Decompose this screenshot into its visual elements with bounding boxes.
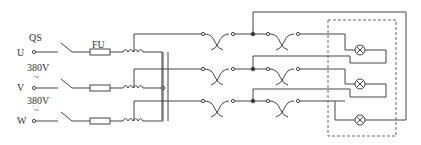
- coil-u-icon: [123, 50, 143, 53]
- circuit-svg: QS FU U 380V ~ V 380V ~ W: [0, 0, 421, 145]
- coil-v-icon: [123, 86, 143, 89]
- phase-v-line: [32, 69, 201, 91]
- switch-label: QS: [29, 32, 42, 43]
- coupler-1b-icon: [270, 34, 288, 50]
- fuse-label: FU: [92, 39, 106, 50]
- ac-symbol-2: ~: [34, 105, 39, 115]
- switch-blade-v: [61, 79, 72, 88]
- phase-u-label: U: [17, 47, 25, 58]
- lamp-1-icon: [355, 45, 365, 55]
- phase-w-label: W: [17, 115, 27, 126]
- phase-w-line: [32, 101, 201, 124]
- circuit-diagram: QS FU U 380V ~ V 380V ~ W: [0, 0, 421, 145]
- coupler-2a-icon: [205, 69, 223, 85]
- coil-w-icon: [123, 119, 143, 122]
- lamp-wiring: [335, 12, 406, 120]
- phase-v-label: V: [17, 82, 25, 93]
- fuse-v-icon: [90, 85, 110, 91]
- coupler-3b-icon: [270, 101, 288, 117]
- switch-blade-w: [61, 112, 72, 121]
- coupler-1a-icon: [205, 34, 223, 50]
- coupler-group-row1: [201, 12, 406, 50]
- switch-blade-u: [61, 43, 72, 52]
- phase-u-line: [32, 34, 201, 120]
- lamp-3-icon: [355, 115, 365, 125]
- fuse-w-icon: [90, 118, 110, 124]
- lamp-2-icon: [355, 79, 365, 89]
- coupler-2b-icon: [270, 69, 288, 85]
- ac-symbol-1: ~: [34, 72, 39, 82]
- fuse-u-icon: [90, 49, 110, 55]
- coupler-3a-icon: [205, 101, 223, 117]
